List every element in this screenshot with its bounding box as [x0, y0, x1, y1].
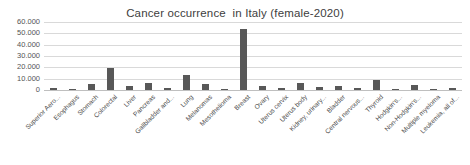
- y-axis-tick-label: 0: [0, 86, 40, 94]
- bar[interactable]: [335, 86, 343, 90]
- y-axis-tick-label: 40.000: [0, 41, 40, 49]
- y-axis-tick-label: 50.000: [0, 29, 40, 37]
- chart-title: Cancer occurrence in Italy (female-2020): [0, 6, 470, 20]
- bar[interactable]: [449, 88, 457, 90]
- bar[interactable]: [50, 88, 58, 90]
- bar[interactable]: [354, 88, 362, 90]
- bar[interactable]: [259, 86, 267, 90]
- bar[interactable]: [240, 29, 248, 90]
- y-axis: 010.00020.00030.00040.00050.00060.000: [0, 22, 40, 90]
- bar[interactable]: [316, 87, 324, 91]
- bar[interactable]: [297, 83, 305, 90]
- bar[interactable]: [373, 80, 381, 90]
- y-axis-tick-label: 20.000: [0, 63, 40, 71]
- y-axis-tick-label: 30.000: [0, 52, 40, 60]
- bar[interactable]: [126, 86, 134, 90]
- plot-area: [44, 22, 462, 90]
- bar[interactable]: [145, 83, 153, 90]
- bar[interactable]: [164, 88, 172, 90]
- bar[interactable]: [88, 84, 96, 90]
- bar-chart: Cancer occurrence in Italy (female-2020)…: [0, 0, 470, 165]
- x-axis: Superior Aero...EsophagusStomachColorect…: [44, 91, 462, 165]
- bar[interactable]: [202, 84, 210, 90]
- bar[interactable]: [411, 85, 419, 90]
- bar-series: [44, 22, 462, 90]
- y-axis-tick-label: 60.000: [0, 18, 40, 26]
- bar[interactable]: [183, 75, 191, 90]
- y-axis-tick-label: 10.000: [0, 75, 40, 83]
- bar[interactable]: [107, 68, 115, 90]
